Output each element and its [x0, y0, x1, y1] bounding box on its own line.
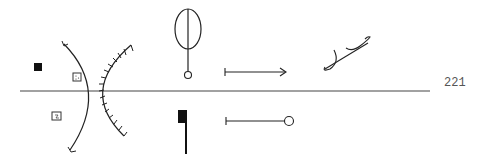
concave-lens-arc — [62, 41, 89, 152]
dotted-box-lower — [52, 112, 61, 120]
dotted-box-upper — [73, 73, 81, 81]
optics-diagram — [0, 0, 496, 158]
circle-terminated-line — [226, 117, 294, 126]
curl-stroke-symbol — [324, 37, 370, 70]
loop-pin-symbol — [175, 9, 201, 79]
page-number: 221 — [444, 76, 466, 90]
arrow-right-symbol — [225, 68, 286, 76]
flag-post-symbol — [178, 110, 186, 154]
filled-square-marker — [34, 63, 42, 71]
